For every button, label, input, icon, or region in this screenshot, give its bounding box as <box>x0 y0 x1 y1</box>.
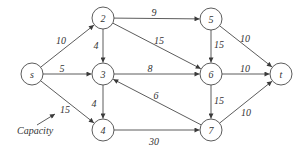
edge-capacity-label: 10 <box>56 35 66 46</box>
edge-arrow-icon <box>113 79 201 125</box>
node-5: 5 <box>200 8 222 30</box>
edge-s-3: 5 <box>43 63 92 75</box>
edge-capacity-label: 4 <box>94 40 99 51</box>
edge-2-5: 9 <box>114 7 200 19</box>
edge-6-7: 15 <box>211 85 224 119</box>
edge-arrow-icon <box>41 25 94 67</box>
edge-5-6: 15 <box>211 30 224 63</box>
edge-capacity-label: 9 <box>152 7 157 18</box>
node-label: s <box>30 69 34 80</box>
node-t: t <box>270 63 292 85</box>
node-7: 7 <box>200 119 222 141</box>
edge-3-6: 8 <box>114 63 200 75</box>
edge-2-6: 15 <box>113 23 201 69</box>
edge-capacity-label: 10 <box>241 107 251 118</box>
node-3: 3 <box>92 63 114 85</box>
edge-arrow-icon <box>113 23 201 69</box>
edge-4-7: 30 <box>114 130 200 147</box>
node-label: 3 <box>100 69 106 80</box>
node-label: 2 <box>101 13 106 24</box>
edge-capacity-label: 30 <box>148 136 159 147</box>
edge-capacity-label: 15 <box>154 35 164 46</box>
edge-capacity-label: 6 <box>154 90 159 101</box>
edge-capacity-label: 5 <box>60 63 65 74</box>
edge-capacity-label: 15 <box>214 39 224 50</box>
node-label: t <box>280 69 283 80</box>
edges-layer: 105154915483015101015610 <box>41 7 272 147</box>
node-2: 2 <box>92 7 114 29</box>
edge-arrow-icon <box>41 81 94 123</box>
edge-capacity-label: 4 <box>92 98 97 109</box>
edge-s-2: 10 <box>41 25 94 67</box>
edge-2-3: 4 <box>94 29 104 63</box>
edge-arrow-icon <box>114 18 200 19</box>
edge-7-t: 10 <box>220 81 272 123</box>
capacity-label: Capacity <box>17 125 54 136</box>
edge-capacity-label: 10 <box>240 63 250 74</box>
node-4: 4 <box>92 119 114 141</box>
node-s: s <box>21 63 43 85</box>
edge-s-4: 15 <box>41 81 94 123</box>
edge-7-3: 6 <box>113 79 201 125</box>
edge-3-4: 4 <box>92 85 104 119</box>
edge-capacity-label: 15 <box>214 95 224 106</box>
node-6: 6 <box>200 63 222 85</box>
capacity-annotation: Capacity <box>17 114 55 136</box>
edge-capacity-label: 8 <box>148 63 153 74</box>
capacity-pointer-arrow-icon <box>37 114 55 125</box>
node-label: 4 <box>101 125 106 136</box>
node-label: 5 <box>209 14 214 25</box>
edge-6-t: 10 <box>222 63 270 75</box>
node-label: 6 <box>209 69 214 80</box>
flow-network-diagram: 105154915483015101015610 s234567t Capaci… <box>0 0 307 152</box>
edge-capacity-label: 10 <box>240 33 250 44</box>
edge-5-t: 10 <box>220 26 272 67</box>
edge-capacity-label: 15 <box>60 104 70 115</box>
